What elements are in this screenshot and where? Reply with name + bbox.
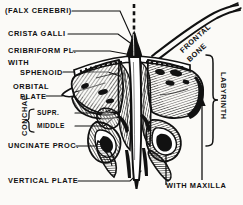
label-orbital-plate-line1: ORBITAL [13,82,49,91]
label-crista-galli: CRISTA GALLI [8,29,66,38]
label-falx-cerebri: (FALX CEREBRI) [5,6,72,15]
label-with-sphenoid-line2: SPHENOID [20,68,63,77]
label-labyrinth: LABYRINTH [219,72,228,120]
anatomical-figure-ethmoid-bone: (FALX CEREBRI) CRISTA GALLI CRIBRIFORM P… [0,0,243,205]
label-conchae: CONCHAE [20,95,29,136]
label-with-sphenoid-line1: WITH [8,58,29,67]
labyrinth-bracket [206,55,218,146]
crista-galli-shape [126,31,143,58]
label-uncinate-process: UNCINATE PROC. [8,141,79,150]
labyrinth-right [148,60,204,119]
label-concha-superior: SUPR. [37,108,59,117]
label-vertical-plate: VERTICAL PLATE [8,176,78,185]
label-with-maxilla: WITH MAXILLA [166,181,226,190]
label-cribriform-plate: CRIBRIFORM PL. [8,46,76,55]
label-concha-middle: MIDDLE [37,121,65,130]
ethmoid-bone-body [62,31,204,190]
